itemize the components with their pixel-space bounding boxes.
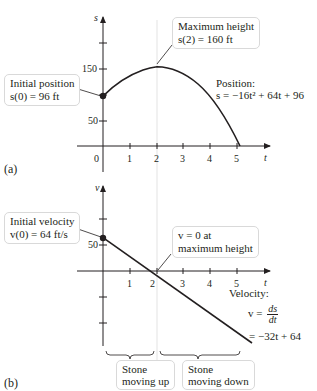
- moving-down-line2: moving down: [188, 375, 249, 387]
- velocity-equation-2: = −32t + 64: [249, 330, 301, 342]
- max-height-value: s(2) = 160 ft: [178, 33, 254, 46]
- position-equation: s = −16t² + 64t + 96: [216, 89, 304, 101]
- velocity-chart: [77, 186, 270, 359]
- leader-zero-velocity: [158, 254, 171, 270]
- leader-initial-velocity: [78, 229, 101, 237]
- s-tick-50: 50: [88, 116, 98, 126]
- v-tick-50: 50: [88, 240, 98, 250]
- moving-up-line2: moving up: [122, 375, 169, 387]
- brace-moving-up: [106, 351, 154, 359]
- t-tick-1: 1: [127, 154, 132, 164]
- t-tick-0: 0: [94, 154, 99, 164]
- max-height-callout: Maximum height s(2) = 160 ft: [172, 17, 260, 49]
- moving-down-callout: Stone moving down: [182, 360, 255, 390]
- velocity-fraction: ds dt: [267, 304, 278, 325]
- panel-label-a: (a): [4, 162, 17, 177]
- max-height-title: Maximum height: [178, 20, 254, 33]
- zero-velocity-callout: v = 0 at maximum height: [172, 226, 259, 258]
- t-tick-4: 4: [207, 154, 212, 164]
- initial-position-value: s(0) = 96 ft: [10, 90, 74, 103]
- t-tick-4-b: 4: [207, 279, 212, 289]
- leader-max-height: [157, 45, 172, 64]
- moving-down-line1: Stone: [188, 363, 249, 375]
- initial-velocity-point: [100, 235, 106, 241]
- initial-position-title: Initial position: [10, 77, 74, 90]
- v-axis-label: v: [95, 182, 99, 194]
- panel-label-b: (b): [4, 376, 18, 391]
- t-tick-5: 5: [234, 154, 239, 164]
- initial-velocity-value: v(0) = 64 ft/s: [10, 228, 74, 241]
- moving-up-callout: Stone moving up: [116, 360, 175, 390]
- brace-moving-down: [160, 351, 240, 359]
- initial-velocity-title: Initial velocity: [10, 215, 74, 228]
- velocity-lhs: v =: [248, 307, 262, 319]
- velocity-equation: v = ds dt: [248, 304, 278, 325]
- fraction-denominator: dt: [267, 315, 278, 325]
- zero-velocity-value: maximum height: [178, 242, 253, 255]
- t-tick-3-b: 3: [180, 279, 185, 289]
- position-equation-label: Position: s = −16t² + 64t + 96: [216, 77, 304, 101]
- t-tick-3: 3: [180, 154, 185, 164]
- t-tick-2: 2: [154, 154, 159, 164]
- moving-up-line1: Stone: [122, 363, 169, 375]
- zero-velocity-title: v = 0 at: [178, 229, 253, 242]
- t-tick-2-b: 2: [150, 279, 155, 289]
- initial-position-callout: Initial position s(0) = 96 ft: [4, 74, 80, 106]
- t-axis-label-a: t: [264, 153, 267, 163]
- position-title: Position:: [216, 77, 304, 89]
- s-axis-label: s: [94, 12, 98, 24]
- velocity-title: Velocity:: [229, 287, 269, 299]
- t-tick-1-b: 1: [127, 279, 132, 289]
- s-tick-150: 150: [82, 64, 97, 74]
- initial-velocity-callout: Initial velocity v(0) = 64 ft/s: [4, 212, 80, 244]
- leader-initial-position: [78, 89, 101, 96]
